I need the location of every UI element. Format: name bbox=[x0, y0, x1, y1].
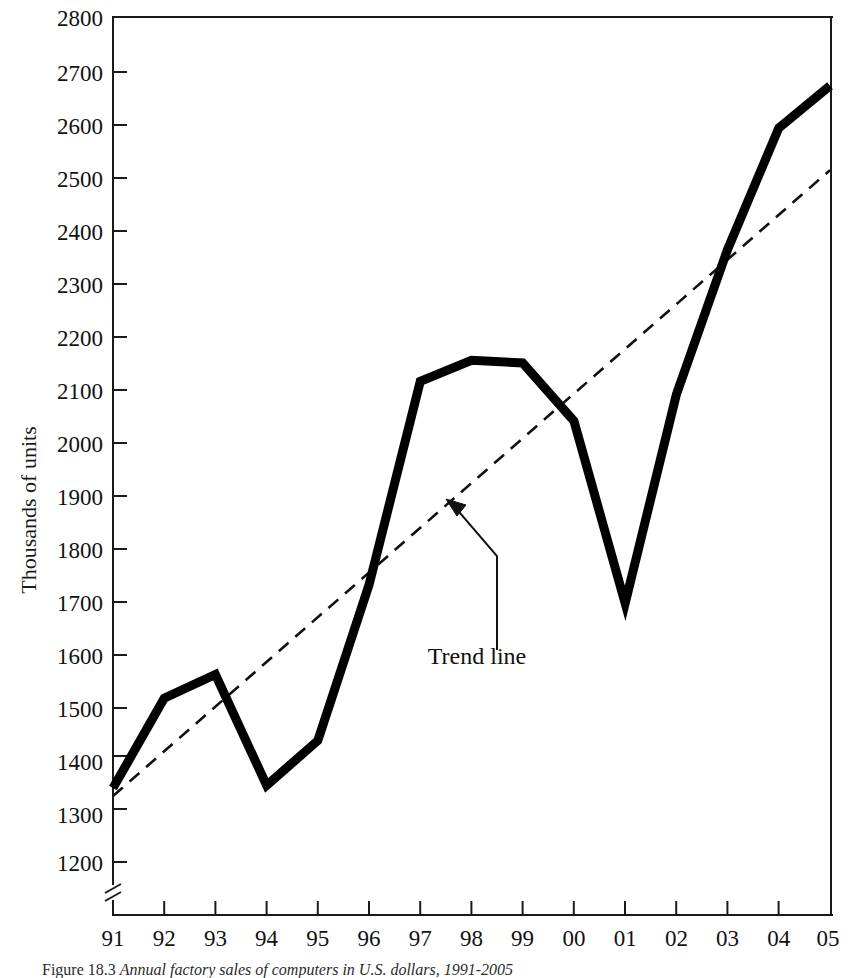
annotation-leader-line bbox=[454, 506, 497, 650]
figure-container: Thousands of units 2800 2700 2600 2500 2… bbox=[0, 0, 860, 978]
figure-caption: Figure 18.3 Annual factory sales of comp… bbox=[42, 961, 513, 978]
y-tick-label: 1200 bbox=[57, 851, 103, 876]
x-axis-ticks bbox=[164, 901, 778, 915]
y-tick-label: 1400 bbox=[57, 750, 103, 775]
y-tick-label: 2600 bbox=[57, 114, 103, 139]
x-tick-label: 92 bbox=[153, 926, 176, 951]
y-tick-label: 1300 bbox=[57, 803, 103, 828]
axis-frame bbox=[113, 17, 832, 915]
y-tick-label: 2400 bbox=[57, 220, 103, 245]
annotation-arrow-icon bbox=[446, 499, 466, 516]
y-tick-label: 1600 bbox=[57, 644, 103, 669]
y-tick-label: 1900 bbox=[57, 485, 103, 510]
x-tick-label: 97 bbox=[409, 926, 432, 951]
x-tick-label: 04 bbox=[767, 926, 791, 951]
trend-line-annotation: Trend line bbox=[428, 499, 526, 669]
data-line-series bbox=[113, 86, 830, 788]
x-tick-label: 93 bbox=[204, 926, 227, 951]
y-tick-label: 2800 bbox=[57, 6, 103, 31]
x-tick-label: 01 bbox=[614, 926, 637, 951]
y-tick-label: 1800 bbox=[57, 538, 103, 563]
line-chart: Thousands of units 2800 2700 2600 2500 2… bbox=[0, 0, 860, 978]
y-tick-label: 2700 bbox=[57, 61, 103, 86]
y-tick-label: 2500 bbox=[57, 167, 103, 192]
y-tick-labels: 2800 2700 2600 2500 2400 2300 2200 2100 … bbox=[57, 6, 103, 876]
x-tick-label: 91 bbox=[102, 926, 125, 951]
y-tick-label: 2100 bbox=[57, 379, 103, 404]
x-tick-label: 94 bbox=[255, 926, 279, 951]
x-tick-label: 05 bbox=[817, 926, 840, 951]
x-tick-labels: 91 92 93 94 95 96 97 98 99 00 01 02 03 0… bbox=[102, 926, 840, 951]
x-tick-label: 99 bbox=[511, 926, 534, 951]
x-tick-label: 03 bbox=[716, 926, 739, 951]
y-axis-break-icon bbox=[105, 884, 121, 901]
x-tick-label: 96 bbox=[358, 926, 381, 951]
annotation-label: Trend line bbox=[428, 643, 526, 669]
x-tick-label: 98 bbox=[460, 926, 483, 951]
y-axis-label: Thousands of units bbox=[16, 426, 41, 593]
y-tick-label: 2000 bbox=[57, 432, 103, 457]
y-axis-ticks bbox=[113, 72, 127, 862]
y-tick-label: 2200 bbox=[57, 326, 103, 351]
x-tick-label: 95 bbox=[306, 926, 329, 951]
y-tick-label: 1700 bbox=[57, 591, 103, 616]
x-tick-label: 00 bbox=[563, 926, 586, 951]
figure-caption-text: Figure 18.3 Annual factory sales of comp… bbox=[42, 961, 513, 978]
x-tick-label: 02 bbox=[665, 926, 688, 951]
y-tick-label: 1500 bbox=[57, 697, 103, 722]
y-axis-label-text: Thousands of units bbox=[16, 426, 41, 593]
y-tick-label: 2300 bbox=[57, 273, 103, 298]
